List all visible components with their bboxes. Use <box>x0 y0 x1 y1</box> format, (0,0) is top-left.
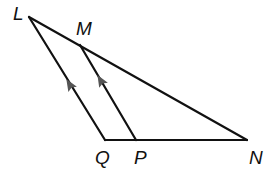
vertex-label-l: L <box>13 4 24 23</box>
vertex-label-n: N <box>249 148 263 167</box>
segment-lq <box>29 17 105 140</box>
vertex-label-p: P <box>134 148 147 167</box>
segment-ln <box>29 17 247 140</box>
parallel-arrow-icon-mp <box>93 72 108 87</box>
diagram-canvas: L M Q P N <box>0 0 274 170</box>
triangle-figure <box>0 0 274 170</box>
segment-mp <box>80 45 136 140</box>
vertex-label-m: M <box>76 19 92 38</box>
vertex-label-q: Q <box>95 148 110 167</box>
